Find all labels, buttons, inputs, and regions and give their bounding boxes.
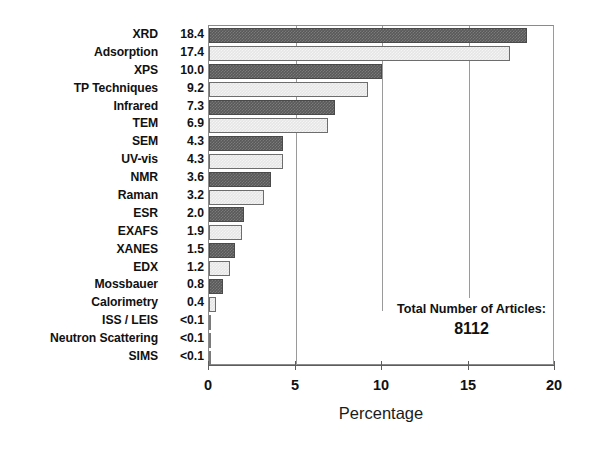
category-name: NMR	[131, 170, 158, 184]
category-name: Calorimetry	[91, 295, 158, 309]
category-value: 0.8	[164, 277, 204, 291]
category-name: XANES	[117, 242, 159, 256]
category-name: Infrared	[113, 99, 158, 113]
bar-sem	[209, 136, 283, 151]
category-row: SIMS<0.1	[0, 347, 206, 365]
total-articles-annotation: Total Number of Articles: 8112	[391, 298, 552, 342]
bar-exafs	[209, 225, 242, 240]
category-name: ESR	[133, 206, 158, 220]
x-axis: 05101520	[208, 365, 554, 366]
bar-iss-leis	[209, 315, 211, 330]
category-name: EXAFS	[118, 224, 158, 238]
category-row: XPS10.0	[0, 61, 206, 79]
category-name: UV-vis	[121, 152, 158, 166]
x-tick-label: 10	[373, 377, 389, 393]
category-name: EDX	[133, 260, 158, 274]
category-row: TEM6.9	[0, 114, 206, 132]
bar-xrd	[209, 28, 527, 43]
category-row: NMR3.6	[0, 168, 206, 186]
category-value: 4.3	[164, 152, 204, 166]
bar-adsorption	[209, 46, 510, 61]
bar-esr	[209, 207, 244, 222]
bar-sims	[209, 351, 211, 366]
category-name: SIMS	[129, 349, 158, 363]
x-tick-label: 20	[546, 377, 562, 393]
category-row: Infrared7.3	[0, 97, 206, 115]
category-row: Neutron Scattering<0.1	[0, 329, 206, 347]
x-axis-title: Percentage	[208, 404, 554, 423]
category-label-column: XRD18.4Adsorption17.4XPS10.0TP Technique…	[0, 25, 206, 365]
bar-chart-figure: XRD18.4Adsorption17.4XPS10.0TP Technique…	[0, 0, 591, 457]
category-row: XANES1.5	[0, 240, 206, 258]
category-value: 17.4	[164, 45, 204, 59]
category-value: 1.2	[164, 260, 204, 274]
bar-calorimetry	[209, 297, 216, 312]
category-value: 3.6	[164, 170, 204, 184]
category-name: SEM	[132, 134, 158, 148]
category-value: <0.1	[164, 331, 204, 345]
category-row: UV-vis4.3	[0, 150, 206, 168]
category-value: 7.3	[164, 99, 204, 113]
category-value: <0.1	[164, 313, 204, 327]
category-value: <0.1	[164, 349, 204, 363]
category-name: TP Techniques	[74, 81, 158, 95]
category-row: Adsorption17.4	[0, 43, 206, 61]
bar-xanes	[209, 243, 235, 258]
category-value: 2.0	[164, 206, 204, 220]
bar-nmr	[209, 172, 271, 187]
x-tick-label: 5	[291, 377, 299, 393]
bar-mossbauer	[209, 279, 223, 294]
bar-tem	[209, 118, 328, 133]
category-value: 1.5	[164, 242, 204, 256]
category-value: 10.0	[164, 63, 204, 77]
annotation-value: 8112	[397, 318, 546, 340]
category-value: 18.4	[164, 27, 204, 41]
category-name: Mossbauer	[95, 277, 158, 291]
category-row: EXAFS1.9	[0, 222, 206, 240]
bar-xps	[209, 64, 382, 79]
category-row: Calorimetry0.4	[0, 293, 206, 311]
bar-infrared	[209, 100, 335, 115]
category-name: XRD	[133, 27, 158, 41]
annotation-title: Total Number of Articles:	[397, 300, 546, 318]
category-name: Neutron Scattering	[50, 331, 158, 345]
category-value: 0.4	[164, 295, 204, 309]
bar-uv-vis	[209, 154, 283, 169]
category-name: XPS	[134, 63, 158, 77]
x-tick-mark-15	[468, 361, 469, 370]
category-row: TP Techniques9.2	[0, 79, 206, 97]
category-row: EDX1.2	[0, 258, 206, 276]
category-name: Adsorption	[94, 45, 158, 59]
bar-raman	[209, 190, 264, 205]
x-tick-mark-10	[381, 361, 382, 370]
category-value: 3.2	[164, 188, 204, 202]
x-tick-label: 0	[204, 377, 212, 393]
x-tick-mark-20	[554, 361, 555, 370]
category-value: 6.9	[164, 116, 204, 130]
category-row: ISS / LEIS<0.1	[0, 311, 206, 329]
category-value: 1.9	[164, 224, 204, 238]
bar-neutron-scattering	[209, 333, 211, 348]
category-name: TEM	[133, 116, 158, 130]
category-name: ISS / LEIS	[102, 313, 158, 327]
bar-edx	[209, 261, 230, 276]
x-tick-mark-5	[295, 361, 296, 370]
category-row: Mossbauer0.8	[0, 276, 206, 294]
category-row: XRD18.4	[0, 25, 206, 43]
category-row: SEM4.3	[0, 132, 206, 150]
category-value: 9.2	[164, 81, 204, 95]
category-row: ESR2.0	[0, 204, 206, 222]
category-value: 4.3	[164, 134, 204, 148]
category-row: Raman3.2	[0, 186, 206, 204]
x-tick-mark-0	[208, 361, 209, 370]
category-name: Raman	[118, 188, 158, 202]
x-tick-label: 15	[460, 377, 476, 393]
bar-tp-techniques	[209, 82, 368, 97]
